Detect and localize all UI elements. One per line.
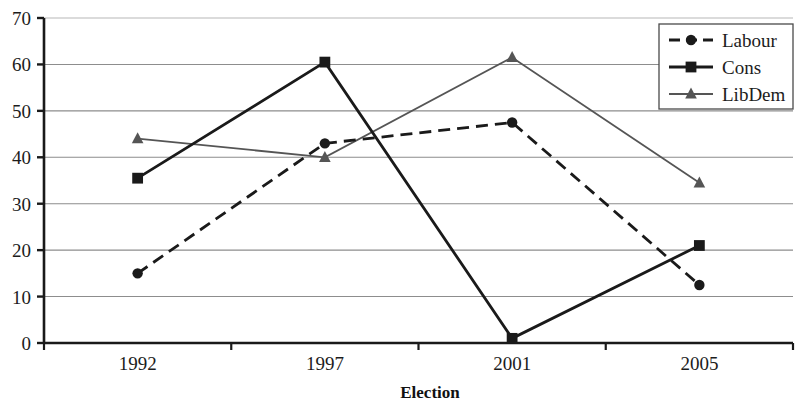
- y-axis-tick-label: 40: [12, 147, 31, 168]
- legend-swatch-marker: [686, 35, 696, 45]
- x-axis-tick-label: 2005: [680, 353, 718, 374]
- y-axis-tick-label: 70: [12, 8, 31, 29]
- y-axis-tick-labels: 010203040506070: [12, 8, 31, 354]
- data-point-libdem-1992: [132, 132, 144, 143]
- x-axis-tick-labels: 1992199720012005: [119, 353, 719, 374]
- legend-label: Labour: [722, 30, 778, 51]
- data-point-cons-2005: [694, 240, 705, 251]
- y-axis-tick-label: 30: [12, 194, 31, 215]
- data-point-cons-1992: [132, 173, 143, 184]
- chart-legend: LabourConsLibDem: [659, 24, 793, 109]
- chart-canvas: 010203040506070 1992199720012005 Electio…: [0, 0, 798, 411]
- data-point-labour-2005: [694, 280, 704, 290]
- x-axis-tick-label: 1997: [306, 353, 344, 374]
- data-point-cons-2001: [507, 333, 518, 344]
- x-axis-tick-label: 2001: [493, 353, 531, 374]
- data-point-labour-2001: [507, 117, 517, 127]
- y-axis-tick-label: 50: [12, 101, 31, 122]
- y-axis-tick-label: 0: [22, 333, 32, 354]
- data-point-libdem-2001: [506, 51, 518, 62]
- x-axis-title: Election: [400, 383, 460, 402]
- series-line-libdem: [138, 57, 700, 182]
- data-point-labour-1992: [132, 268, 142, 278]
- legend-swatch-marker: [686, 62, 697, 73]
- data-point-libdem-2005: [694, 176, 706, 187]
- x-axis-tick-label: 1992: [119, 353, 157, 374]
- legend-label: LibDem: [722, 84, 786, 105]
- legend-label: Cons: [722, 57, 761, 78]
- line-chart: 010203040506070 1992199720012005 Electio…: [0, 0, 798, 411]
- data-point-labour-1997: [320, 138, 330, 148]
- series-markers: [132, 51, 705, 344]
- data-point-cons-1997: [319, 57, 330, 68]
- y-axis-tick-label: 20: [12, 240, 31, 261]
- y-axis-tick-label: 10: [12, 287, 31, 308]
- y-axis-tick-label: 60: [12, 54, 31, 75]
